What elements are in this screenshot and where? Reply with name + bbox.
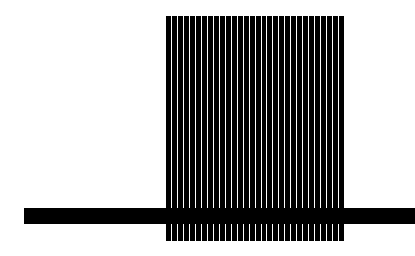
horizontal-bar xyxy=(24,208,415,224)
